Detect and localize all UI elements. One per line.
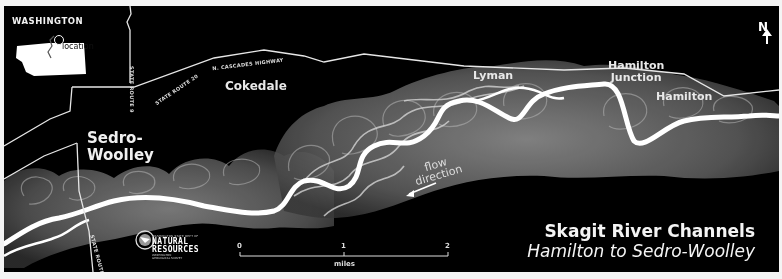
town-lyman: Lyman	[473, 69, 513, 82]
map-subtitle: Hamilton to Sedro-Woolley	[527, 241, 755, 261]
inset-location-label: location	[62, 42, 94, 51]
agency-logo: WASHINGTON STATE DEPT OF NATURAL RESOURC…	[152, 234, 199, 261]
scale-tick-0: 0	[237, 242, 242, 250]
town-hamilton: Hamilton	[656, 90, 712, 103]
road-label-state-route-9-north: STATE ROUTE 9	[129, 66, 135, 113]
scale-unit: miles	[334, 260, 355, 268]
scale-bar	[240, 252, 448, 256]
scale-tick-1: 1	[341, 242, 346, 250]
town-cokedale: Cokedale	[225, 79, 287, 93]
inset-state-label: WASHINGTON	[12, 16, 83, 26]
north-label: N	[755, 20, 771, 34]
town-hamilton-junction: Hamilton Junction	[608, 60, 664, 84]
map-title: Skagit River Channels	[544, 221, 755, 241]
scale-tick-2: 2	[445, 242, 450, 250]
map-frame: WASHINGTON location N Sedro- Woolley Cok…	[4, 6, 779, 272]
town-sedro-woolley: Sedro- Woolley	[87, 130, 154, 164]
